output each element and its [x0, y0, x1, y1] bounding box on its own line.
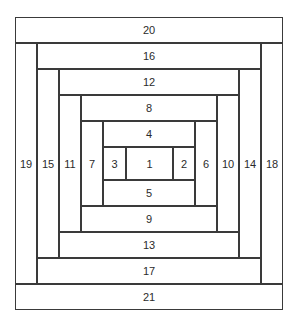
quilt-piece-label: 21 — [143, 292, 155, 303]
quilt-piece-label: 2 — [181, 158, 187, 169]
quilt-piece-label: 13 — [143, 240, 155, 251]
quilt-piece-label: 11 — [64, 158, 75, 169]
quilt-piece-3: 3 — [103, 147, 126, 180]
quilt-piece-label: 10 — [222, 158, 234, 169]
quilt-piece-label: 9 — [146, 214, 152, 225]
quilt-piece-8: 8 — [81, 95, 217, 121]
quilt-piece-label: 17 — [143, 266, 155, 277]
quilt-piece-label: 12 — [143, 77, 155, 88]
quilt-piece-13: 13 — [59, 232, 239, 258]
quilt-piece-14: 14 — [239, 69, 261, 258]
quilt-piece-label: 5 — [146, 188, 152, 199]
quilt-piece-5: 5 — [103, 180, 195, 206]
quilt-piece-label: 16 — [143, 51, 155, 62]
quilt-piece-label: 8 — [146, 103, 152, 114]
quilt-piece-label: 18 — [266, 158, 278, 169]
quilt-piece-19: 19 — [15, 43, 37, 284]
quilt-piece-6: 6 — [195, 121, 217, 206]
quilt-piece-21: 21 — [15, 284, 283, 310]
log-cabin-block-diagram: 123456789101112131415161718192021 — [0, 0, 301, 312]
quilt-piece-label: 3 — [111, 158, 117, 169]
quilt-piece-7: 7 — [81, 121, 103, 206]
quilt-piece-20: 20 — [15, 17, 283, 43]
quilt-piece-2: 2 — [173, 147, 195, 180]
quilt-piece-4: 4 — [103, 121, 195, 147]
quilt-piece-10: 10 — [217, 95, 239, 232]
quilt-piece-label: 14 — [244, 158, 256, 169]
quilt-piece-label: 6 — [203, 158, 209, 169]
quilt-piece-9: 9 — [81, 206, 217, 232]
quilt-piece-label: 1 — [146, 158, 152, 169]
quilt-piece-16: 16 — [37, 43, 261, 69]
quilt-piece-label: 15 — [42, 158, 54, 169]
quilt-piece-18: 18 — [261, 43, 283, 284]
quilt-piece-11: 11 — [59, 95, 81, 232]
quilt-piece-12: 12 — [59, 69, 239, 95]
quilt-piece-1: 1 — [126, 147, 173, 180]
quilt-piece-label: 20 — [143, 25, 155, 36]
quilt-piece-17: 17 — [37, 258, 261, 284]
quilt-piece-15: 15 — [37, 69, 59, 258]
quilt-piece-label: 19 — [20, 158, 32, 169]
quilt-piece-label: 7 — [89, 158, 95, 169]
quilt-piece-label: 4 — [146, 129, 152, 140]
